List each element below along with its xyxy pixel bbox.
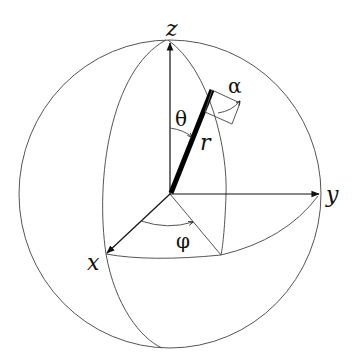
x-axis-label: x bbox=[87, 250, 100, 275]
phi-label: φ bbox=[176, 229, 190, 253]
x-axis bbox=[107, 194, 170, 253]
y-axis-label: y bbox=[325, 182, 339, 207]
alpha-label: α bbox=[228, 74, 242, 98]
meridian-x bbox=[103, 40, 166, 348]
z-axis-label: z bbox=[165, 16, 178, 41]
equator-arc bbox=[106, 196, 318, 258]
spherical-coordinates-diagram: z y x r θ φ α bbox=[0, 0, 360, 364]
meridian-r bbox=[168, 40, 226, 255]
radius-label: r bbox=[200, 130, 212, 155]
theta-label: θ bbox=[175, 107, 187, 131]
phi-arc bbox=[141, 221, 193, 226]
